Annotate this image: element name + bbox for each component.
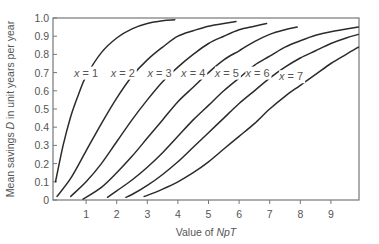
y-tick-label: 0.5 [34, 103, 49, 115]
x-axis-ticks: 123456789 [83, 200, 334, 220]
x-tick-label: 9 [328, 208, 334, 220]
curve-label-x-5: x = 5 [214, 67, 239, 79]
curve-x-5 [108, 27, 359, 197]
y-tick-label: 0.8 [34, 48, 49, 60]
chart: 00.10.20.30.40.50.60.70.80.91.0 12345678… [0, 0, 379, 244]
curves [56, 20, 359, 199]
curve-label-x-4: x = 4 [180, 67, 205, 79]
y-tick-label: 0.4 [34, 121, 49, 133]
curve-label-x-1: x = 1 [73, 67, 98, 79]
x-tick-label: 6 [236, 208, 242, 220]
x-tick-label: 1 [83, 208, 89, 220]
y-tick-label: 0.6 [34, 85, 49, 97]
curve-label-x-6: x = 6 [244, 67, 269, 79]
curve-label-x-7: x = 7 [278, 70, 303, 82]
y-tick-label: 0.3 [34, 139, 49, 151]
x-tick-label: 5 [206, 208, 212, 220]
curve-label-x-2: x = 2 [110, 67, 135, 79]
curve-labels: x = 1x = 2x = 3x = 4x = 5x = 6x = 7 [73, 67, 305, 84]
x-tick-label: 2 [114, 208, 120, 220]
y-tick-label: 0 [43, 194, 49, 206]
curve-label-x-3: x = 3 [146, 67, 171, 79]
y-tick-label: 0.2 [34, 158, 49, 170]
curve-x-6 [126, 34, 359, 197]
x-tick-label: 7 [267, 208, 273, 220]
x-axis-label: Value of NpT [176, 226, 238, 238]
y-tick-label: 0.1 [34, 176, 49, 188]
y-tick-label: 1.0 [34, 12, 49, 24]
y-axis-ticks: 00.10.20.30.40.50.60.70.80.91.0 [34, 12, 57, 206]
x-tick-label: 8 [297, 208, 303, 220]
y-axis-label: Mean savings D in unit years per year [4, 20, 16, 197]
y-tick-label: 0.9 [34, 30, 49, 42]
y-tick-label: 0.7 [34, 67, 49, 79]
curve-x-2 [57, 22, 236, 197]
x-tick-label: 4 [175, 208, 181, 220]
x-tick-label: 3 [144, 208, 150, 220]
